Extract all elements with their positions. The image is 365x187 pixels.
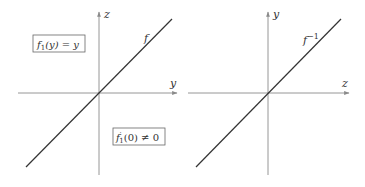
right-panel: y z f−1 [188,8,349,175]
box-bottom-rest: (0) ≠ 0 [124,132,159,143]
right-curve-label-sup: −1 [307,32,319,41]
left-panel: z y f f1(y) = y f′1(0) ≠ 0 [18,8,177,175]
right-vertical-axis-label: y [272,8,280,21]
derivative-condition-box: f′1(0) ≠ 0 [113,128,165,145]
left-vertical-axis-label: z [103,8,110,21]
diagram-canvas: z y f f1(y) = y f′1(0) ≠ 0 y z f−1 [0,0,365,187]
left-horizontal-axis-label: y [169,77,177,90]
identity-condition-box: f1(y) = y [33,35,85,52]
right-horizontal-axis-label: z [341,77,348,90]
box-top-rest: (y) = y [45,39,79,50]
